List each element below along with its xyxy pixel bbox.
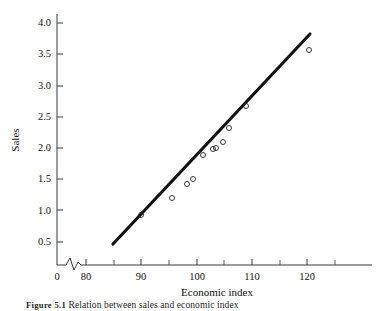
y-tick-label-3.0: 3.0 <box>38 80 51 91</box>
data-point <box>201 153 206 158</box>
axis-break-zigzag-icon <box>66 258 81 270</box>
y-axis-ticks <box>57 23 63 242</box>
data-point <box>170 196 175 201</box>
x-tick-label-90: 90 <box>136 271 147 282</box>
data-point <box>185 182 190 187</box>
figure-caption: Figure 5.1 Relation between sales and ec… <box>26 300 239 311</box>
figure-caption-body: Relation between sales and economic inde… <box>69 300 239 310</box>
figure-caption-label: Figure 5.1 <box>26 300 66 310</box>
y-tick-label-1.0: 1.0 <box>38 205 51 216</box>
x-axis-title: Economic index <box>181 286 253 298</box>
y-tick-label-2.0: 2.0 <box>38 142 51 153</box>
x-tick-label-100: 100 <box>189 271 205 282</box>
x-tick-label-110: 110 <box>244 271 259 282</box>
y-tick-label-2.5: 2.5 <box>38 111 51 122</box>
y-axis-title: Sales <box>9 128 21 151</box>
y-tick-label-3.5: 3.5 <box>38 48 51 59</box>
data-point <box>307 48 312 53</box>
y-tick-label-1.5: 1.5 <box>38 173 51 184</box>
x-axis-ticks-minor <box>114 260 335 265</box>
data-point <box>227 126 232 131</box>
y-tick-label-4.0: 4.0 <box>38 17 51 28</box>
x-tick-label-0: 0 <box>54 271 59 282</box>
x-axis-ticks-major <box>86 259 307 265</box>
scatter-plot: 4.0 3.5 3.0 2.5 2.0 1.5 1.0 0.5 0 80 90 … <box>0 0 377 311</box>
data-point <box>214 146 219 151</box>
data-points <box>139 48 312 218</box>
y-tick-label-0.5: 0.5 <box>38 236 51 247</box>
data-point <box>211 147 216 152</box>
data-point <box>191 177 196 182</box>
x-tick-label-80: 80 <box>81 271 92 282</box>
data-point <box>221 140 226 145</box>
x-tick-label-120: 120 <box>299 271 315 282</box>
figure-container: 4.0 3.5 3.0 2.5 2.0 1.5 1.0 0.5 0 80 90 … <box>0 0 377 311</box>
